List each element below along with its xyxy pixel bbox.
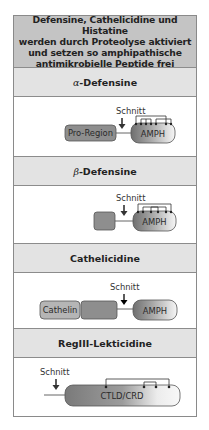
section-title-text: Cathelicidine: [70, 253, 140, 264]
header-text: Defensine, Cathelicidine und Histatine w…: [16, 14, 194, 70]
cathelin-label: Cathelin: [43, 305, 78, 315]
cut-arrow-icon: [121, 205, 128, 216]
cut-label: Schnitt: [40, 367, 70, 377]
cut-arrow-icon: [121, 294, 128, 305]
diagram-regiii-lekticidine: Schnitt CTLD/CRD: [14, 358, 196, 416]
diagram-frame: Defensine, Cathelicidine und Histatine w…: [13, 15, 197, 417]
cut-label: Schnitt: [116, 193, 146, 203]
section-title-text: RegIII-Lekticidine: [58, 338, 152, 349]
pro-region-box: [94, 212, 115, 230]
section-title-regiii-lekticidine: RegIII-Lekticidine: [14, 328, 196, 358]
amph-label: AMPH: [143, 306, 167, 316]
section-title-alpha-defensine: α-Defensine: [14, 67, 196, 97]
cut-label: Schnitt: [116, 106, 146, 116]
diagram-cathelicidine: Schnitt Cathelin AMPH: [14, 273, 196, 328]
section-title-text: -Defensine: [79, 77, 137, 88]
amph-label: AMPH: [142, 217, 166, 227]
section-title-beta-defensine: β-Defensine: [14, 156, 196, 186]
header-line-1: Defensine, Cathelicidine und Histatine: [16, 14, 194, 36]
section-title-cathelicidine: Cathelicidine: [14, 243, 196, 273]
cut-label: Schnitt: [110, 282, 140, 292]
section-title-text: -Defensine: [79, 166, 137, 177]
diagram-alpha-defensine: Schnitt Pro-Region AMPH: [14, 97, 196, 156]
header-line-3: und setzen so amphipathische: [16, 47, 194, 58]
cut-arrow-icon: [119, 118, 126, 129]
header-panel: Defensine, Cathelicidine und Histatine w…: [14, 16, 196, 68]
header-line-2: werden durch Proteolyse aktiviert: [16, 36, 194, 47]
ctld-crd-label: CTLD/CRD: [100, 391, 143, 401]
amph-label: AMPH: [141, 129, 165, 139]
pro-region-label: Pro-Region: [68, 128, 113, 138]
pro-region-box: [81, 301, 117, 319]
cut-arrow-icon: [53, 379, 60, 390]
diagram-beta-defensine: Schnitt AMPH: [14, 186, 196, 243]
